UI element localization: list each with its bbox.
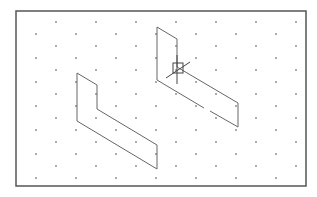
grid-dot: [195, 105, 196, 106]
grid-dot: [95, 165, 96, 166]
drawing-frame: [16, 11, 306, 186]
grid-dot: [115, 33, 116, 34]
grid-dot: [275, 105, 276, 106]
grid-dot: [215, 165, 216, 166]
right-l-shape[interactable]: [157, 27, 238, 127]
grid-dot: [215, 117, 216, 118]
drawn-shapes[interactable]: [77, 27, 238, 169]
grid-dot: [235, 153, 236, 154]
grid-dot: [35, 153, 36, 154]
grid-dot: [115, 57, 116, 58]
grid-dot: [115, 153, 116, 154]
grid-dot: [135, 165, 136, 166]
grid-dot: [235, 33, 236, 34]
grid-dot: [75, 57, 76, 58]
grid-dot: [255, 45, 256, 46]
grid-dot: [255, 165, 256, 166]
grid-dot: [295, 45, 296, 46]
grid-dot: [55, 93, 56, 94]
left-l-shape[interactable]: [77, 73, 157, 169]
grid-dot: [195, 153, 196, 154]
grid-dot: [175, 45, 176, 46]
grid-dot: [75, 105, 76, 106]
grid-dot: [275, 57, 276, 58]
grid-dot: [255, 141, 256, 142]
grid-dot: [95, 117, 96, 118]
grid-dot: [255, 93, 256, 94]
grid-dot: [35, 129, 36, 130]
grid-dot: [215, 141, 216, 142]
grid-dot: [215, 21, 216, 22]
grid-dot: [155, 33, 156, 34]
grid-dot: [275, 33, 276, 34]
grid-dot: [195, 33, 196, 34]
grid-dot: [35, 105, 36, 106]
grid-dot: [95, 45, 96, 46]
grid-dot: [115, 105, 116, 106]
grid-dot: [35, 57, 36, 58]
grid-dot: [175, 165, 176, 166]
grid-dot: [115, 81, 116, 82]
grid-dot: [115, 177, 116, 178]
grid-dot: [155, 153, 156, 154]
grid-dot: [275, 81, 276, 82]
grid-dot: [35, 81, 36, 82]
isometric-drawing-canvas[interactable]: [0, 0, 317, 197]
grid-dot: [295, 165, 296, 166]
grid-dot: [235, 129, 236, 130]
grid-dot: [75, 129, 76, 130]
grid-dot: [55, 21, 56, 22]
grid-dot: [195, 177, 196, 178]
grid-dot: [275, 177, 276, 178]
grid-dot: [75, 153, 76, 154]
grid-dot: [295, 69, 296, 70]
grid-dot: [135, 117, 136, 118]
grid-dot: [175, 21, 176, 22]
grid-dot: [255, 69, 256, 70]
grid-dot: [155, 105, 156, 106]
grid-dot: [255, 117, 256, 118]
grid-dot: [175, 93, 176, 94]
grid-dot: [55, 117, 56, 118]
grid-dot: [95, 69, 96, 70]
grid-dot: [35, 33, 36, 34]
grid-dot: [55, 45, 56, 46]
grid-dot: [75, 33, 76, 34]
grid-dot: [295, 141, 296, 142]
grid-dot: [255, 21, 256, 22]
grid-dot: [95, 21, 96, 22]
grid-dot: [235, 81, 236, 82]
grid-dot: [95, 93, 96, 94]
grid-dot: [75, 81, 76, 82]
grid-dot: [155, 129, 156, 130]
grid-dot: [215, 93, 216, 94]
grid-dot: [235, 57, 236, 58]
grid-dot: [135, 69, 136, 70]
grid-dot: [75, 177, 76, 178]
grid-dot: [295, 117, 296, 118]
grid-dot: [55, 69, 56, 70]
grid-dot: [195, 57, 196, 58]
grid-dot: [155, 81, 156, 82]
grid-dot: [135, 45, 136, 46]
grid-dot: [295, 21, 296, 22]
grid-dot: [115, 129, 116, 130]
grid-dot: [275, 129, 276, 130]
grid-dot: [215, 69, 216, 70]
grid-dot: [235, 177, 236, 178]
grid-dot: [95, 141, 96, 142]
grid-dot: [155, 177, 156, 178]
grid-dot: [195, 129, 196, 130]
grid-dot: [55, 165, 56, 166]
grid-dot: [135, 141, 136, 142]
grid-dot: [235, 105, 236, 106]
grid-dot: [55, 141, 56, 142]
grid-dot: [295, 93, 296, 94]
grid-dot: [195, 81, 196, 82]
grid-dot: [135, 93, 136, 94]
isometric-dot-grid: [35, 21, 296, 178]
grid-dot: [155, 57, 156, 58]
grid-dot: [175, 141, 176, 142]
grid-dot: [215, 45, 216, 46]
crosshair-cursor-icon: [166, 55, 190, 84]
